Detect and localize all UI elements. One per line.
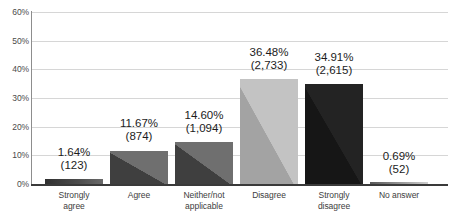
value-label-strongly-disagree: 34.91% (2,615) bbox=[293, 51, 375, 76]
bar-strongly-agree[interactable] bbox=[45, 179, 103, 184]
x-category-line: Strongly bbox=[301, 190, 367, 201]
value-percent: 1.64% bbox=[33, 146, 115, 159]
x-category-line: Strongly bbox=[41, 190, 107, 201]
value-percent: 0.69% bbox=[358, 150, 440, 163]
value-count: (52) bbox=[358, 163, 440, 176]
x-category-disagree: Disagree bbox=[236, 190, 302, 201]
x-category-agree: Agree bbox=[106, 190, 172, 201]
x-category-line: Agree bbox=[106, 190, 172, 201]
bar-neither-not-applicable[interactable] bbox=[175, 142, 233, 184]
x-category-line: Neither/not bbox=[171, 190, 237, 201]
x-category-strongly-agree: Strongly agree bbox=[41, 190, 107, 212]
x-category-line: Disagree bbox=[236, 190, 302, 201]
bar-no-answer[interactable] bbox=[370, 182, 428, 184]
x-axis-line bbox=[31, 184, 448, 186]
bar-chart: 60% 50% 40% 30% 20% 10% 0% 1.64% (123) 1… bbox=[0, 0, 453, 220]
x-category-line: disagree bbox=[301, 201, 367, 212]
value-count: (2,615) bbox=[293, 64, 375, 77]
value-label-neither-not-applicable: 14.60% (1,094) bbox=[163, 109, 245, 134]
value-count: (123) bbox=[33, 159, 115, 172]
x-category-line: applicable bbox=[171, 201, 237, 212]
value-percent: 34.91% bbox=[293, 51, 375, 64]
value-count: (1,094) bbox=[163, 122, 245, 135]
value-label-no-answer: 0.69% (52) bbox=[358, 150, 440, 175]
x-category-strongly-disagree: Strongly disagree bbox=[301, 190, 367, 212]
x-category-no-answer: No answer bbox=[366, 190, 432, 201]
x-category-line: agree bbox=[41, 201, 107, 212]
bar-strongly-disagree[interactable] bbox=[305, 84, 363, 184]
x-category-neither-not-applicable: Neither/not applicable bbox=[171, 190, 237, 212]
bar-agree[interactable] bbox=[110, 151, 168, 185]
bar-disagree[interactable] bbox=[240, 79, 298, 184]
x-category-line: No answer bbox=[366, 190, 432, 201]
value-label-strongly-agree: 1.64% (123) bbox=[33, 146, 115, 171]
value-percent: 14.60% bbox=[163, 109, 245, 122]
